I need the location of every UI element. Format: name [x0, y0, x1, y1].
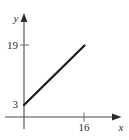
figure-container: y x 19 3 16 — [0, 0, 129, 140]
y-axis-arrow-icon — [21, 13, 28, 22]
x-axis-arrow-icon — [112, 114, 122, 121]
x-tick-label-16: 16 — [79, 121, 91, 133]
y-axis-label: y — [13, 12, 19, 24]
y-tick-label-3: 3 — [13, 98, 19, 110]
x-axis-label: x — [118, 121, 124, 133]
line-graph: y x 19 3 16 — [0, 0, 129, 140]
y-tick-label-19: 19 — [7, 39, 19, 51]
data-line-segment — [24, 46, 85, 106]
